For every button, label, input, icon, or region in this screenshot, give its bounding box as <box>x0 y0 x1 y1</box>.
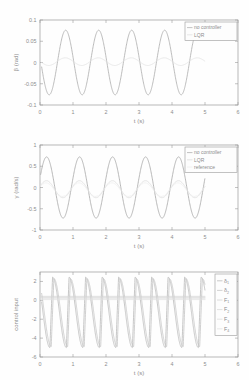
legend-label[interactable]: no controller <box>194 149 222 155</box>
x-tick-label: 1 <box>72 361 75 367</box>
x-tick-label: 4 <box>171 109 174 115</box>
x-tick-label: 2 <box>105 109 108 115</box>
y-tick-label: -6 <box>32 354 37 360</box>
x-tick-label: 2 <box>105 361 108 367</box>
y-axis-title: β (rad) <box>13 54 19 72</box>
plot-svg-beta: 0123456-0.1-0.0500.050.1t (s)β (rad)no c… <box>0 0 249 126</box>
x-tick-label: 4 <box>171 234 174 240</box>
trace-2-1 <box>42 279 205 347</box>
x-tick-label: 0 <box>39 109 42 115</box>
x-tick-label: 3 <box>138 109 141 115</box>
y-axis-title: control input <box>13 298 19 331</box>
plot-panel-beta: 0123456-0.1-0.0500.050.1t (s)β (rad)no c… <box>0 0 249 126</box>
legend-label[interactable]: no controller <box>194 24 222 30</box>
x-tick-label: 5 <box>204 361 207 367</box>
x-tick-label: 0 <box>39 361 42 367</box>
y-tick-label: 0 <box>34 297 37 303</box>
x-tick-label: 2 <box>105 234 108 240</box>
plot-panel-control-input: 0123456-6-4-202t (s)control inputδ1δ2F1F… <box>0 252 249 378</box>
legend-label[interactable]: LQR <box>194 32 205 38</box>
y-tick-label: 2 <box>34 278 37 284</box>
x-tick-label: 3 <box>138 361 141 367</box>
y-tick-label: 0 <box>34 185 37 191</box>
x-tick-label: 1 <box>72 109 75 115</box>
x-tick-label: 6 <box>237 234 240 240</box>
x-tick-label: 5 <box>204 109 207 115</box>
figure-container: 0123456-0.1-0.0500.050.1t (s)β (rad)no c… <box>0 0 249 380</box>
x-tick-label: 4 <box>171 361 174 367</box>
trace-nocontroller-0 <box>41 157 205 218</box>
plot-svg-gamma: 0123456-1-0.500.51t (s)γ (rad/s)no contr… <box>0 125 249 251</box>
plot-panel-gamma: 0123456-1-0.500.51t (s)γ (rad/s)no contr… <box>0 125 249 251</box>
x-tick-label: 0 <box>39 234 42 240</box>
legend-label[interactable]: reference <box>194 164 215 170</box>
x-tick-label: 6 <box>237 109 240 115</box>
y-tick-label: 0 <box>34 60 37 66</box>
x-axis-title: t (s) <box>134 370 144 376</box>
x-axis-title: t (s) <box>134 243 144 249</box>
x-tick-label: 3 <box>138 234 141 240</box>
x-axis-title: t (s) <box>134 118 144 124</box>
y-tick-label: -0.5 <box>27 206 36 212</box>
y-tick-label: 1 <box>34 142 37 148</box>
x-tick-label: 6 <box>237 361 240 367</box>
x-tick-label: 1 <box>72 234 75 240</box>
trace-reference-2 <box>41 183 205 197</box>
plot-svg-control_input: 0123456-6-4-202t (s)control inputδ1δ2F1F… <box>0 252 249 378</box>
legend-label[interactable]: LQR <box>194 157 205 163</box>
y-tick-label: -0.05 <box>24 81 36 87</box>
y-tick-label: -2 <box>32 316 37 322</box>
y-tick-label: -1 <box>32 227 37 233</box>
x-tick-label: 5 <box>204 234 207 240</box>
y-tick-label: 0.1 <box>29 17 37 23</box>
y-tick-label: -4 <box>32 335 37 341</box>
y-axis-title: γ (rad/s) <box>13 176 19 198</box>
y-tick-label: -0.1 <box>27 102 36 108</box>
y-tick-label: 0.05 <box>26 38 37 44</box>
y-tick-label: 0.5 <box>29 163 37 169</box>
